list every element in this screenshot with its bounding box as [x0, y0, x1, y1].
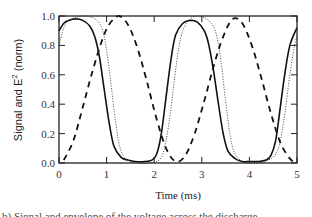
figure-caption: b) Signal and envelope of the voltage ac… [2, 210, 266, 217]
line-chart: 012345 0.00.20.40.60.81.0 Time (ms) Sign… [0, 0, 312, 217]
y-tick-label: 0.4 [41, 98, 55, 110]
x-tick-label: 3 [199, 168, 205, 180]
x-tick-label: 4 [247, 168, 253, 180]
x-tick-label: 5 [294, 168, 300, 180]
x-axis: 012345 [56, 16, 300, 180]
x-tick-label: 1 [104, 168, 110, 180]
y-tick-label: 0.6 [41, 69, 55, 81]
y-tick-label: 0.2 [41, 128, 55, 140]
plot-area [59, 16, 297, 163]
y-axis-title-base: Signal and E [12, 79, 24, 141]
y-tick-label: 0.8 [41, 39, 55, 51]
y-tick-label: 1.0 [41, 10, 55, 22]
series-solid [59, 19, 297, 162]
x-tick-label: 0 [56, 168, 62, 180]
y-axis: 0.00.20.40.60.81.0 [41, 10, 297, 169]
x-tick-label: 2 [151, 168, 157, 180]
x-axis-title: Time (ms) [155, 189, 201, 202]
y-axis-title: Signal and E2 (norm) [10, 39, 24, 141]
y-axis-title-tail: (norm) [12, 39, 24, 74]
y-tick-label: 0.0 [41, 157, 55, 169]
